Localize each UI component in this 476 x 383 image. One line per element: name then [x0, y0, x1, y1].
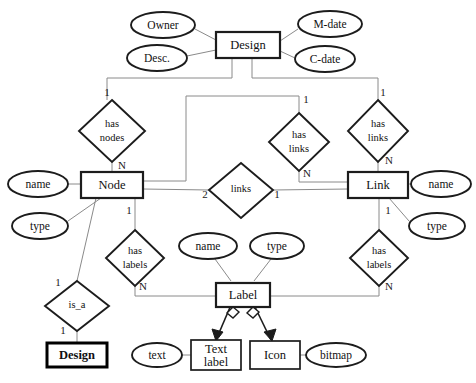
relationship-has-links-left[interactable]: has links [269, 113, 329, 171]
relationship-has-labels-right[interactable]: has labels [350, 230, 408, 286]
entity-design[interactable]: Design [216, 32, 280, 58]
relationship-has-links-right[interactable]: has links [348, 100, 408, 162]
relationship-has-links-left-line-1: has [292, 129, 306, 140]
relationship-links-label: links [231, 183, 251, 194]
attribute-link-name-label: name [429, 178, 454, 190]
relationship-has-nodes[interactable]: has nodes [79, 100, 145, 162]
cardinality-links-link: 1 [274, 188, 280, 200]
er-diagram-svg: has nodes has links has links links has [0, 0, 476, 383]
attribute-label-name[interactable]: name [179, 233, 237, 259]
cardinality-haslinksleft-link: N [303, 167, 311, 179]
attribute-node-name-label: name [26, 178, 51, 190]
entity-design-label: Design [230, 38, 266, 52]
cardinality-haslabelsright-label: N [385, 280, 393, 292]
entity-icon[interactable]: Icon [250, 341, 300, 369]
entity-link[interactable]: Link [348, 172, 408, 198]
edge-design-mdate [280, 29, 298, 41]
relationship-has-labels-left-line-1: has [128, 245, 142, 256]
relationship-has-labels-right-line-2: labels [367, 259, 392, 270]
attribute-m-date-label: M-date [313, 18, 346, 30]
relationship-has-links-right-line-2: links [368, 132, 388, 143]
attribute-link-type[interactable]: type [409, 213, 465, 239]
edge-node-links [143, 189, 209, 190]
entity-design-subtype-label: Design [59, 348, 95, 362]
entity-text-label-line-1: Text [205, 342, 228, 356]
relationship-is-a-label: is_a [69, 299, 86, 310]
relationship-has-nodes-line-1: has [105, 118, 119, 129]
attribute-bitmap[interactable]: bitmap [306, 343, 366, 367]
edge-label-type [254, 259, 271, 281]
relationship-links[interactable]: links [209, 163, 273, 218]
entity-design-subtype[interactable]: Design [47, 343, 107, 367]
attribute-c-date[interactable]: C-date [295, 46, 355, 72]
attribute-label-type[interactable]: type [250, 233, 304, 259]
cardinality-link-haslabels: 1 [385, 204, 391, 216]
entity-link-label: Link [366, 178, 390, 192]
entity-label[interactable]: Label [216, 283, 270, 307]
attribute-desc-label: Desc. [144, 52, 170, 64]
inheritance-connectors [212, 305, 276, 341]
entity-text-label[interactable]: Text label [191, 340, 241, 370]
cardinality-hasnodes-node: N [118, 159, 126, 171]
aggregation-diamond-icon [247, 307, 259, 318]
entity-node[interactable]: Node [81, 172, 143, 198]
cardinality-design-haslinksright: 1 [380, 86, 386, 98]
attribute-desc[interactable]: Desc. [127, 45, 187, 71]
edge-haslabels-right-label [270, 286, 379, 296]
relationship-has-links-right-line-1: has [371, 118, 385, 129]
edge-link-type [389, 198, 409, 221]
attribute-owner[interactable]: Owner [131, 12, 195, 38]
relationship-has-links-left-line-2: links [289, 143, 309, 154]
edge-links-link [273, 189, 348, 190]
attribute-node-name[interactable]: name [8, 171, 68, 197]
relationship-has-nodes-line-2: nodes [100, 132, 125, 143]
cardinality-design-hasnodes: 1 [104, 86, 110, 98]
edge-label-name [215, 259, 231, 281]
attribute-label-type-label: type [267, 240, 287, 253]
attribute-owner-label: Owner [147, 19, 178, 31]
attribute-node-type[interactable]: type [12, 213, 68, 239]
attribute-node-type-label: type [30, 220, 50, 233]
cardinality-node-links: 2 [202, 188, 208, 200]
cardinality-haslabelsleft-label: N [139, 280, 147, 292]
attribute-m-date[interactable]: M-date [298, 11, 362, 37]
edge-design-cdate [280, 51, 295, 58]
attribute-bitmap-label: bitmap [320, 349, 352, 362]
attribute-link-type-label: type [427, 220, 447, 233]
edge-node-isa [77, 198, 96, 281]
entity-text-label-line-2: label [204, 355, 229, 369]
attribute-link-name[interactable]: name [411, 171, 471, 197]
attribute-label-name-label: name [196, 240, 221, 252]
entity-icon-label: Icon [264, 348, 287, 362]
edge-haslabels-left-label [135, 286, 216, 296]
edge-design-owner [195, 29, 216, 40]
cardinality-haslinksright-link: N [385, 154, 393, 166]
cardinality-node-haslabels: 1 [126, 204, 132, 216]
relationship-has-labels-left[interactable]: has labels [106, 230, 164, 286]
cardinality-node-haslinksleft: 1 [303, 93, 309, 105]
relationship-has-labels-left-line-2: labels [123, 259, 148, 270]
entity-node-label: Node [98, 178, 126, 192]
relationship-has-labels-right-line-1: has [372, 245, 386, 256]
attribute-text-label: text [148, 349, 166, 361]
er-diagram-canvas: has nodes has links has links links has [0, 0, 476, 383]
relationship-is-a[interactable]: is_a [45, 281, 109, 331]
cardinality-node-isa: 1 [55, 276, 61, 288]
attribute-text[interactable]: text [132, 343, 182, 367]
cardinality-isa-design: 1 [60, 324, 66, 336]
edge-design-desc [187, 50, 216, 56]
attribute-c-date-label: C-date [310, 53, 341, 65]
entity-label-label: Label [229, 288, 258, 302]
edge-node-type [68, 198, 101, 221]
